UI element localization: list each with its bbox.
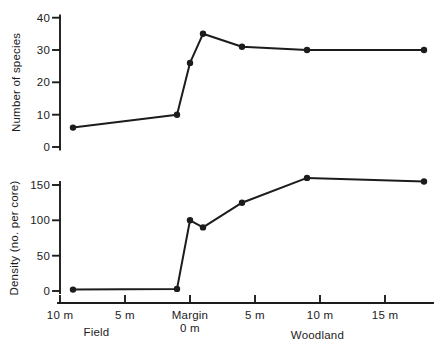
data-point-marker — [200, 224, 206, 230]
y-tick-label: 50 — [37, 250, 50, 262]
field-margin-woodland-figure: 010203040Number of species050100150Densi… — [0, 0, 436, 351]
y-tick-label: 40 — [37, 12, 50, 24]
data-point-marker — [200, 31, 206, 37]
y-axis-title: Density (no. per core) — [8, 181, 20, 296]
data-point-marker — [421, 178, 427, 184]
y-tick-label: 20 — [37, 76, 50, 88]
y-tick-label: 10 — [37, 109, 50, 121]
zone-label: Woodland — [291, 329, 344, 341]
x-tick-label: 10 m — [47, 309, 73, 321]
data-point-marker — [187, 60, 193, 66]
y-tick-label: 0 — [43, 141, 50, 153]
data-point-marker — [70, 124, 76, 130]
x-tick-label: 5 m — [115, 309, 135, 321]
data-point-marker — [304, 47, 310, 53]
data-point-marker — [304, 175, 310, 181]
data-point-marker — [239, 44, 245, 50]
zone-label: Field — [83, 326, 109, 338]
x-sub-label: 0 m — [180, 322, 200, 334]
y-axis-title: Number of species — [10, 33, 22, 132]
data-point-marker — [239, 200, 245, 206]
x-tick-label: 15 m — [372, 309, 398, 321]
y-tick-label: 100 — [30, 214, 50, 226]
x-tick-label: 5 m — [245, 309, 265, 321]
x-tick-label: 10 m — [307, 309, 333, 321]
y-tick-label: 0 — [43, 285, 50, 297]
series-line — [73, 34, 424, 128]
y-tick-label: 30 — [37, 44, 50, 56]
data-point-marker — [187, 217, 193, 223]
data-point-marker — [70, 286, 76, 292]
data-point-marker — [174, 286, 180, 292]
data-point-marker — [174, 112, 180, 118]
x-tick-label: Margin — [172, 309, 208, 321]
data-point-marker — [421, 47, 427, 53]
two-panel-line-chart: 010203040Number of species050100150Densi… — [0, 0, 436, 351]
y-tick-label: 150 — [30, 179, 50, 191]
series-line — [73, 178, 424, 290]
